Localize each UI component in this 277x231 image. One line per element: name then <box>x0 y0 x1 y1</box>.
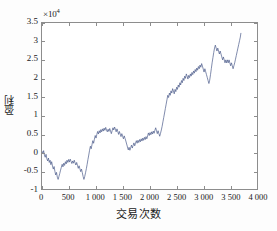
y-tick-label: 0.5 <box>3 129 41 138</box>
x-tick-mark <box>123 23 124 26</box>
y-tick-mark <box>254 153 257 154</box>
x-tick-mark <box>204 186 205 189</box>
profit-line-series <box>42 23 257 189</box>
y-tick-label: 2 <box>3 73 41 82</box>
x-tick-mark <box>42 186 43 189</box>
y-tick-mark <box>254 172 257 173</box>
y-axis-exponent-base: ×10 <box>43 9 56 19</box>
y-tick-mark <box>42 116 45 117</box>
y-tick-label: 1.5 <box>3 92 41 101</box>
x-tick-label: 1 500 <box>113 193 132 202</box>
y-tick-mark <box>254 60 257 61</box>
y-tick-mark <box>42 172 45 173</box>
y-tick-mark <box>42 79 45 80</box>
x-tick-mark <box>96 23 97 26</box>
x-axis-tick-labels: 05001 0001 5002 0002 5003 0003 5004 000 <box>0 193 277 207</box>
y-axis-exponent-label: ×104 <box>43 6 60 19</box>
y-tick-mark <box>254 41 257 42</box>
y-tick-mark <box>254 116 257 117</box>
x-tick-mark <box>123 186 124 189</box>
x-tick-mark <box>69 186 70 189</box>
x-tick-mark <box>231 186 232 189</box>
y-tick-mark <box>42 41 45 42</box>
y-tick-mark <box>254 23 257 24</box>
x-tick-label: 500 <box>62 193 75 202</box>
y-axis-exponent-power: 4 <box>56 7 59 14</box>
y-tick-label: -0.5 <box>3 166 41 175</box>
y-tick-mark <box>42 60 45 61</box>
x-tick-mark <box>150 23 151 26</box>
x-tick-label: 4 000 <box>248 193 267 202</box>
x-tick-label: 3 000 <box>194 193 213 202</box>
y-tick-label: 0 <box>3 148 41 157</box>
profit-equity-curve-figure: ×104 盈利 3.532.521.510.50-0.5-1 05001 000… <box>0 0 277 231</box>
y-tick-label: 2.5 <box>3 54 41 63</box>
y-tick-label: 3 <box>3 36 41 45</box>
x-tick-mark <box>69 23 70 26</box>
x-tick-mark <box>150 186 151 189</box>
x-tick-mark <box>42 23 43 26</box>
plot-area <box>41 22 258 190</box>
x-tick-label: 3 500 <box>221 193 240 202</box>
y-tick-mark <box>254 79 257 80</box>
x-tick-mark <box>177 23 178 26</box>
x-tick-label: 0 <box>39 193 43 202</box>
x-tick-label: 2 500 <box>167 193 186 202</box>
y-tick-label: 3.5 <box>3 17 41 26</box>
x-tick-mark <box>231 23 232 26</box>
profit-polyline <box>42 33 241 179</box>
y-tick-mark <box>254 135 257 136</box>
y-tick-mark <box>42 135 45 136</box>
y-tick-mark <box>42 97 45 98</box>
x-tick-mark <box>204 23 205 26</box>
x-tick-mark <box>96 186 97 189</box>
y-tick-mark <box>42 153 45 154</box>
x-tick-mark <box>177 186 178 189</box>
y-tick-label: 1 <box>3 110 41 119</box>
y-tick-mark <box>254 97 257 98</box>
x-axis-title: 交易次数 <box>0 208 277 221</box>
x-tick-label: 1 000 <box>86 193 105 202</box>
x-tick-label: 2 000 <box>140 193 159 202</box>
